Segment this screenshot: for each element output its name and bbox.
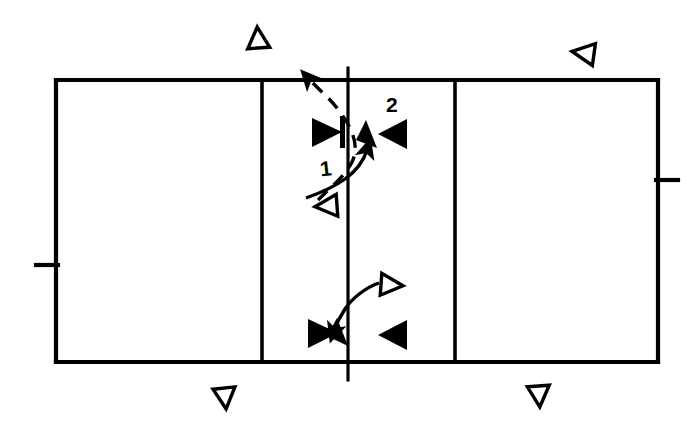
hollow-triangle-left-top-right [571,41,596,66]
hollow-triangle-left-mid [314,194,337,217]
hollow-triangle-markers [213,26,595,410]
filled-triangle-left-lower-right [378,320,407,350]
filled-triangle-left-upper-right [378,119,407,149]
filled-triangle-left-upper-inner [356,120,377,148]
hollow-triangle-right-lower [380,273,403,296]
route-label-1: 1 [319,157,333,179]
movement-arrow-3 [334,283,379,331]
filled-triangle-markers [308,116,407,350]
filled-triangle-right-upper-left [312,118,342,147]
movement-arrow-2 [306,150,367,198]
court-outline [56,80,658,362]
hollow-triangle-down-bottom-right [527,385,550,407]
route-label-2: 2 [386,94,398,115]
hollow-triangle-down-bottom-left [213,387,237,410]
volleyball-court-diagram [0,0,694,433]
diagram-canvas: 1 2 [0,0,694,433]
court-side-ticks [36,180,678,265]
court-attack-lines [262,80,455,362]
hollow-triangle-up-top-left [246,26,269,48]
